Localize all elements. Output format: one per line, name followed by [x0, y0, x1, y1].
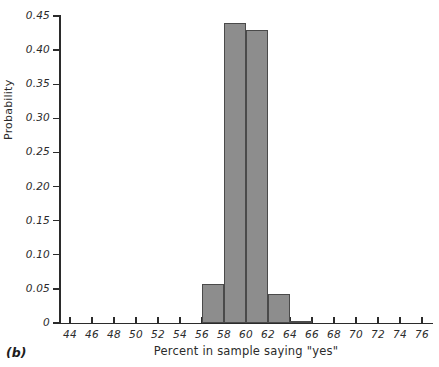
- x-tick-label: 76: [407, 328, 437, 340]
- histogram-bar: [268, 294, 290, 323]
- histogram-bar: [246, 30, 268, 323]
- y-tick-label: 0.10: [4, 248, 50, 260]
- y-tick-label: 0.15: [4, 214, 50, 226]
- y-tick-label: 0.05: [4, 282, 50, 294]
- x-axis-title: Percent in sample saying "yes": [59, 344, 433, 358]
- histogram-bar: [290, 321, 312, 323]
- y-tick-label: 0.45: [4, 9, 50, 21]
- histogram-bars: [59, 16, 433, 323]
- panel-label: (b): [6, 345, 26, 360]
- y-tick-label: 0.20: [4, 180, 50, 192]
- y-tick-label: 0.25: [4, 145, 50, 157]
- histogram-bar: [224, 23, 246, 323]
- histogram-bar: [202, 284, 224, 323]
- y-tick-label: 0.40: [4, 43, 50, 55]
- y-tick-label: 0.35: [4, 77, 50, 89]
- y-tick-label: 0: [4, 316, 50, 328]
- y-tick-label: 0.30: [4, 111, 50, 123]
- histogram-figure: Probability 00.050.100.150.200.250.300.3…: [0, 0, 439, 367]
